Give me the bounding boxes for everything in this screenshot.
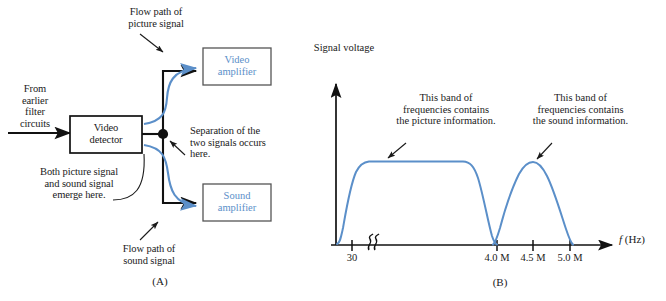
x-axis-label: f (Hz) [619, 233, 645, 245]
flow-path-sound-label: Flow path of sound signal [103, 243, 195, 266]
separation-leader [170, 141, 185, 155]
picture-signal-flow-path [144, 68, 196, 124]
footer-caption-fragment [36, 288, 39, 298]
sound-signal-flow-path [144, 145, 196, 206]
axis-break-icon [368, 234, 379, 250]
sound-amplifier-label: Sound amplifier [203, 190, 271, 214]
flow-path-picture-label: Flow path of picture signal [110, 6, 202, 29]
x-tick-label-5-0M: 5.0 M [549, 252, 591, 263]
picture-band-curve [337, 162, 497, 245]
sound-band-curve [493, 162, 573, 245]
both-signals-note: Both picture signal and sound signal eme… [16, 166, 142, 201]
x-axis-unit: (Hz) [625, 233, 645, 245]
page-footer-strip [0, 288, 666, 301]
y-axis-label: Signal voltage [313, 42, 375, 54]
sound-band-annotation: This band of frequencies contains the so… [508, 92, 653, 127]
picture-band-annotation: This band of frequencies contains the pi… [376, 92, 516, 127]
input-source-label: From earlier filter circuits [2, 83, 68, 129]
separation-note: Separation of the two signals occurs her… [190, 125, 295, 160]
panel-a-caption: (A) [130, 275, 190, 287]
x-axis-symbol: f [619, 233, 622, 245]
picture-band-leader [388, 143, 406, 158]
flow-picture-leader [140, 34, 163, 52]
panel-b-caption: (B) [470, 276, 530, 288]
video-detector-label: Video detector [70, 122, 142, 145]
video-amplifier-label: Video amplifier [203, 54, 271, 78]
sound-band-leader [537, 143, 552, 159]
x-tick-label-4-5M: 4.5 M [512, 252, 554, 263]
flow-sound-leader [140, 222, 158, 240]
x-tick-label-30: 30 [337, 252, 367, 263]
